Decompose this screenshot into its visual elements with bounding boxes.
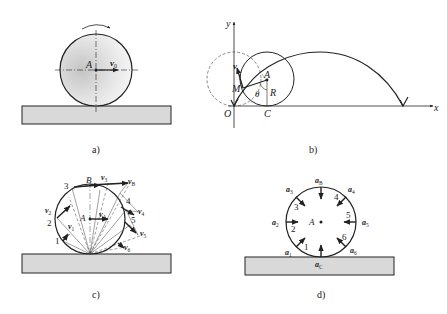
ground-block bbox=[22, 254, 171, 273]
label-point-5: 5 bbox=[131, 215, 136, 225]
panel-b: y x v M A R θ O C b) bbox=[207, 18, 439, 156]
label-a1: a1 bbox=[285, 248, 292, 258]
label-point-2: 2 bbox=[291, 224, 296, 234]
rotation-arrow-icon bbox=[82, 25, 110, 29]
velocity-vectors bbox=[57, 183, 136, 248]
label-y-axis: y bbox=[225, 18, 231, 29]
label-M: M bbox=[231, 83, 241, 94]
label-point-4: 4 bbox=[334, 192, 339, 202]
label-v6: v6 bbox=[124, 243, 131, 253]
caption-c: c) bbox=[92, 289, 100, 301]
origin-cusp-mark bbox=[231, 99, 238, 106]
label-a2: a2 bbox=[272, 218, 279, 228]
label-point-1: 1 bbox=[55, 236, 60, 246]
label-point-5: 5 bbox=[346, 210, 351, 220]
label-point-4: 4 bbox=[126, 196, 131, 206]
panel-c: 1 2 3 4 5 B A v1 v2 v3 vB vA v4 v5 v6 c) bbox=[22, 173, 171, 301]
panel-a: A v0 a) bbox=[22, 25, 171, 156]
label-B: B bbox=[86, 175, 92, 185]
cusp-mark bbox=[400, 97, 408, 106]
panel-d: 1 2 3 4 5 6 A aB a3 a4 a2 a5 a1 a6 aC d) bbox=[245, 176, 394, 301]
caption-b: b) bbox=[309, 144, 317, 156]
label-point-3: 3 bbox=[64, 181, 69, 191]
label-x-axis: x bbox=[433, 102, 439, 113]
label-point-1: 1 bbox=[304, 242, 309, 252]
center-point bbox=[320, 221, 323, 224]
label-a3: a3 bbox=[286, 185, 293, 195]
label-a5: a5 bbox=[362, 218, 369, 228]
label-v2: v2 bbox=[45, 206, 52, 216]
label-v1: v1 bbox=[68, 222, 75, 232]
label-a6: a6 bbox=[350, 246, 357, 256]
label-A: A bbox=[263, 69, 271, 80]
caption-a: a) bbox=[92, 144, 100, 156]
label-A: A bbox=[85, 59, 93, 70]
radius-AM bbox=[243, 80, 267, 88]
label-v4: v4 bbox=[138, 207, 145, 217]
label-O: O bbox=[224, 108, 231, 119]
label-point-3: 3 bbox=[294, 202, 299, 212]
label-vA: vA bbox=[99, 210, 107, 220]
label-v3: v3 bbox=[101, 173, 108, 183]
diagram-canvas: A v0 a) y x v M A R θ O C b) bbox=[0, 0, 447, 314]
velocity-envelope bbox=[57, 183, 138, 241]
label-aB: aB bbox=[315, 176, 323, 186]
caption-d: d) bbox=[317, 289, 325, 301]
center-point bbox=[89, 218, 92, 221]
label-point-6: 6 bbox=[342, 232, 347, 242]
label-A: A bbox=[79, 213, 86, 223]
angle-arc bbox=[260, 83, 267, 90]
label-theta: θ bbox=[255, 89, 260, 99]
label-A: A bbox=[308, 217, 315, 227]
label-point-2: 2 bbox=[47, 218, 52, 228]
label-v5: v5 bbox=[140, 229, 147, 239]
ground-block bbox=[22, 106, 171, 124]
label-vB: vB bbox=[128, 177, 136, 187]
label-C: C bbox=[264, 108, 271, 119]
label-a4: a4 bbox=[348, 185, 355, 195]
label-R: R bbox=[269, 87, 276, 98]
